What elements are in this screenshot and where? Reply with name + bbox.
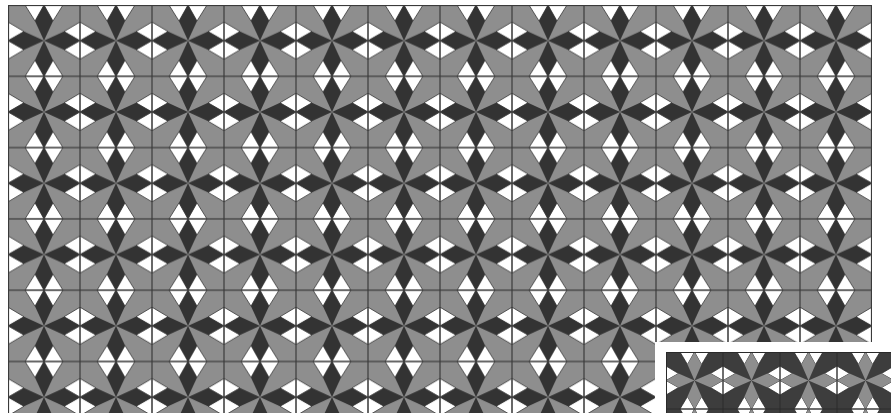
inset-quilt-pattern xyxy=(666,352,891,413)
quilt-figure xyxy=(0,0,891,413)
inset-quilt-svg xyxy=(666,352,891,413)
inset-quilt-fill xyxy=(666,352,891,413)
